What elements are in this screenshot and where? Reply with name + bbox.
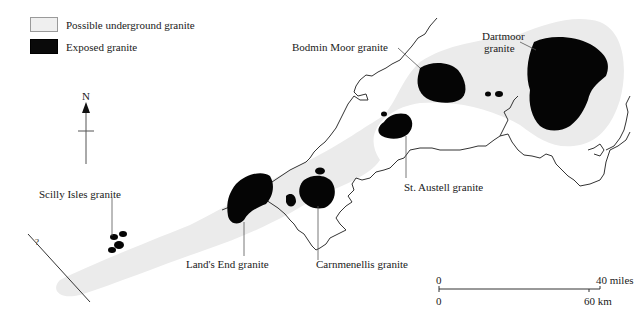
scale-km-end: 60 km (584, 295, 612, 308)
scale-miles-start: 0 (436, 274, 442, 287)
small-granite-outcrop (495, 91, 503, 97)
legend-label: Possible underground granite (66, 19, 195, 31)
carnmenellis-label: Carnmenellis granite (316, 258, 408, 271)
lands-end-label: Land's End granite (186, 258, 269, 271)
legend-item-underground: Possible underground granite (30, 17, 195, 32)
small-granite-outcrop (381, 112, 387, 117)
legend-label: Exposed granite (66, 41, 137, 53)
small-granite-outcrop (485, 92, 491, 97)
scale-bar (439, 286, 600, 292)
st-austell-label: St. Austell granite (404, 181, 483, 194)
scilly-isles-granite-body (108, 231, 127, 253)
small-granite-outcrop (315, 168, 325, 175)
north-label: N (82, 90, 90, 103)
underground-granite-swatch (30, 17, 58, 32)
scilly-isles-label: Scilly Isles granite (39, 188, 121, 201)
bodmin-moor-label: Bodmin Moor granite (292, 41, 388, 54)
exposed-granite-swatch (30, 39, 58, 54)
north-arrow (78, 102, 94, 164)
scale-km-start: 0 (436, 295, 442, 308)
dartmoor-label-line2: granite (484, 42, 515, 55)
north-arrow-head-icon (82, 102, 90, 113)
scale-miles-end: 40 miles (596, 274, 634, 287)
fault-question-mark: ? (35, 236, 39, 249)
legend-item-exposed: Exposed granite (30, 39, 137, 54)
